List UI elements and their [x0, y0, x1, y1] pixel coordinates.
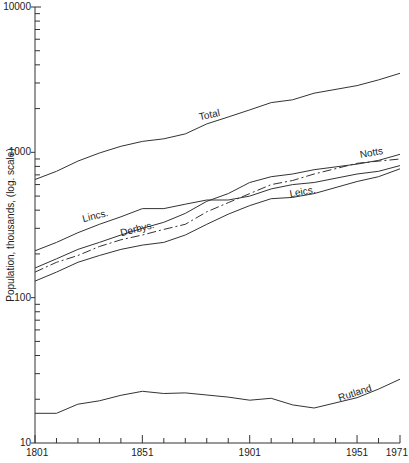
y-tick-label: 10000 — [3, 1, 31, 12]
chart-canvas: 1010010001000018011851190119511971 Total… — [0, 0, 409, 463]
series-label-leics: Leics. — [289, 184, 317, 199]
population-chart: 1010010001000018011851190119511971 Total… — [0, 0, 409, 463]
series-lincs-line — [35, 166, 400, 251]
y-tick-label: 100 — [14, 292, 31, 303]
series-label-total: Total — [198, 107, 221, 122]
series-label-lincs: Lincs. — [81, 207, 109, 224]
x-tick-label: 1951 — [346, 447, 369, 458]
series-label-notts: Notts — [359, 145, 384, 160]
x-tick-label: 1971 — [386, 447, 409, 458]
series-labels: TotalLincs.Derbys.NottsLeics.Rutland — [81, 107, 384, 403]
series-lines — [35, 73, 400, 413]
x-tick-label: 1901 — [239, 447, 262, 458]
series-leics-line — [35, 169, 400, 281]
series-label-rutland: Rutland — [337, 382, 373, 403]
series-total-line — [35, 73, 400, 179]
x-tick-label: 1801 — [26, 447, 49, 458]
series-label-derbys: Derbys. — [119, 219, 155, 238]
y-axis-label: Population, thousands, (log. scale) — [5, 148, 16, 301]
x-tick-label: 1851 — [131, 447, 154, 458]
